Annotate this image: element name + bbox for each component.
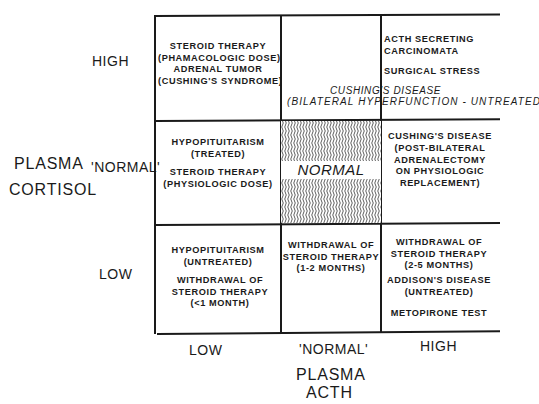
cushings-disease-annotation-line2: (BILATERAL HYPERFUNCTION - UNTREATED) — [287, 96, 517, 108]
cell-high-cortisol-high-acth-carcinomata: ACTH SECRETING CARCINOMATA — [384, 34, 484, 57]
cell-high-cortisol-high-acth-stress: SURGICAL STRESS — [384, 66, 494, 78]
cell-low-cortisol-high-acth-withdrawal: WITHDRAWAL OF STEROID THERAPY (2-5 MONTH… — [384, 237, 494, 272]
cushings-disease-annotation-line1: CUSHING'S DISEASE — [330, 85, 490, 97]
y-axis-title-line1: PLASMA — [14, 153, 84, 175]
cell-low-cortisol-low-acth-hypopituitarism: HYPOPITUITARISM (UNTREATED) — [158, 245, 278, 268]
cell-normal-cortisol-high-acth: CUSHING'S DISEASE (POST-BILATERAL ADRENA… — [384, 131, 496, 190]
cell-low-cortisol-low-acth-withdrawal: WITHDRAWAL OF STEROID THERAPY (<1 MONTH) — [160, 275, 280, 310]
x-level-high: HIGH — [420, 338, 457, 354]
cell-low-cortisol-normal-acth: WITHDRAWAL OF STEROID THERAPY (1-2 MONTH… — [281, 240, 381, 275]
y-level-high: HIGH — [92, 53, 129, 69]
x-axis-title-line2: ACTH — [306, 382, 353, 404]
y-axis-title-line2: CORTISOL — [9, 179, 97, 201]
grid-bottom-line — [157, 330, 500, 335]
x-level-low: LOW — [189, 342, 222, 358]
y-level-normal: 'NORMAL' — [91, 159, 160, 175]
normal-cell-label: NORMAL — [281, 161, 381, 179]
cell-normal-cortisol-low-acth-hypopituitarism: HYPOPITUITARISM (TREATED) — [158, 137, 278, 160]
cell-low-cortisol-high-acth-metopirone: METOPIRONE TEST — [384, 308, 494, 320]
x-level-normal: 'NORMAL' — [299, 341, 368, 357]
cell-high-cortisol-low-acth: STEROID THERAPY (PHAMACOLOGIC DOSE) ADRE… — [158, 41, 278, 87]
cell-normal-cortisol-low-acth-steroid: STEROID THERAPY (PHYSIOLOGIC DOSE) — [158, 167, 278, 190]
normal-cell-hatched: NORMAL — [281, 121, 381, 223]
grid-top-line — [155, 13, 500, 17]
y-level-low: LOW — [99, 266, 132, 282]
cell-low-cortisol-high-acth-addison: ADDISON'S DISEASE (UNTREATED) — [384, 275, 494, 298]
